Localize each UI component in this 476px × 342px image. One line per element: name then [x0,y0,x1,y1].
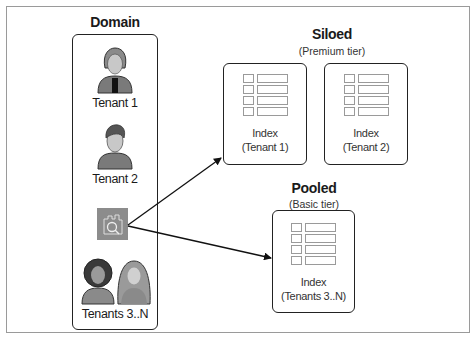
arrow-to-pooled [128,226,271,258]
arrow-to-siloed [128,158,221,225]
connector-arrows [0,0,476,342]
